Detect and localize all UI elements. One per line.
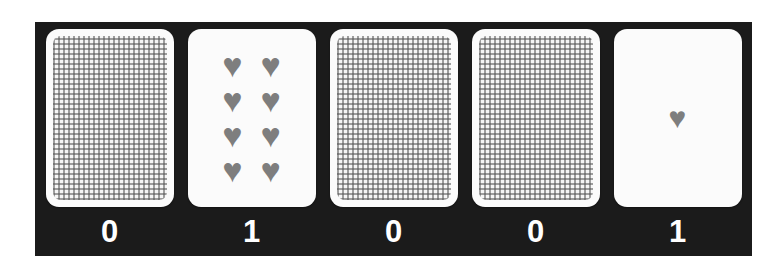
card-column-3: 0	[330, 29, 458, 256]
card-back	[330, 29, 458, 207]
heart-icon: ♥	[222, 83, 242, 118]
card-back-pattern	[337, 36, 451, 200]
heart-icon: ♥	[261, 83, 281, 118]
heart-icon: ♥	[261, 48, 281, 83]
card-indicator-label: 1	[243, 207, 260, 256]
card-column-5: ♥1	[614, 29, 742, 256]
heart-icon: ♥	[669, 103, 687, 133]
card-back-pattern	[53, 36, 167, 200]
card-indicator-label: 0	[101, 207, 118, 256]
heart-icon: ♥	[222, 153, 242, 188]
card-back	[472, 29, 600, 207]
card-column-4: 0	[472, 29, 600, 256]
hearts-layout: ♥♥♥♥♥♥♥♥	[188, 29, 316, 207]
card-indicator-label: 0	[527, 207, 544, 256]
heart-icon: ♥	[261, 153, 281, 188]
hearts-layout: ♥	[614, 29, 742, 207]
card-column-1: 0	[46, 29, 174, 256]
card-panel: 0♥♥♥♥♥♥♥♥100♥1	[35, 22, 752, 256]
heart-icon: ♥	[222, 118, 242, 153]
card-indicator-label: 1	[669, 207, 686, 256]
card-column-2: ♥♥♥♥♥♥♥♥1	[188, 29, 316, 256]
card-indicator-label: 0	[385, 207, 402, 256]
card-back-pattern	[479, 36, 593, 200]
card-face-hearts: ♥	[614, 29, 742, 207]
heart-icon: ♥	[261, 118, 281, 153]
heart-icon: ♥	[222, 48, 242, 83]
card-face-hearts: ♥♥♥♥♥♥♥♥	[188, 29, 316, 207]
card-back	[46, 29, 174, 207]
